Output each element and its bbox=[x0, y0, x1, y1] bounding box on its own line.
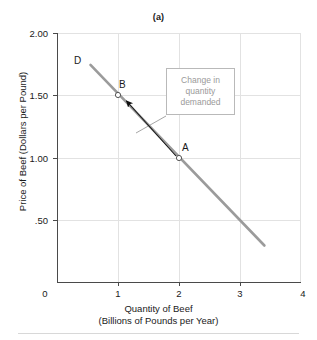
y-tick-mark-0.50 bbox=[53, 220, 57, 221]
annotation-line-1: Change in bbox=[180, 75, 220, 86]
x-tick-label-0: 0 bbox=[33, 288, 57, 299]
footer-divider bbox=[18, 333, 299, 334]
annotation-callout-box: Change in quantity demanded bbox=[166, 68, 235, 115]
y-axis bbox=[57, 33, 58, 282]
curve-label-d: D bbox=[74, 55, 81, 66]
x-tick-label-4: 4 bbox=[291, 288, 315, 299]
callout-leader-line bbox=[136, 116, 166, 133]
x-axis-title-line1: Quantity of Beef bbox=[0, 303, 317, 315]
x-tick-label-2: 2 bbox=[167, 288, 191, 299]
x-tick-label-3: 3 bbox=[228, 288, 252, 299]
data-point-label-b: B bbox=[119, 79, 126, 90]
y-tick-mark-2.00 bbox=[53, 33, 57, 34]
x-axis-title-line2: (Billions of Pounds per Year) bbox=[0, 315, 317, 327]
y-tick-mark-1.50 bbox=[53, 95, 57, 96]
annotation-callout-text: Change in quantity demanded bbox=[177, 75, 223, 108]
gridline-x-1 bbox=[118, 33, 119, 282]
figure-panel-a: (a) 2.00 1.50 1.00 .50 0 1 2 3 4 Price o… bbox=[0, 0, 317, 340]
x-tick-mark-2 bbox=[179, 282, 180, 286]
annotation-line-3: demanded bbox=[180, 97, 220, 108]
gridline-x-3 bbox=[240, 33, 241, 282]
x-tick-label-1: 1 bbox=[106, 288, 130, 299]
annotation-line-2: quantity bbox=[180, 86, 220, 97]
x-axis-title: Quantity of Beef (Billions of Pounds per… bbox=[0, 303, 317, 327]
y-axis-title: Price of Beef (Dollars per Pound) bbox=[17, 32, 28, 252]
page-title: (a) bbox=[0, 12, 317, 22]
gridline-x-4 bbox=[300, 33, 301, 282]
x-tick-mark-3 bbox=[240, 282, 241, 286]
x-tick-mark-1 bbox=[118, 282, 119, 286]
data-point-label-a: A bbox=[182, 142, 189, 153]
y-tick-mark-1.00 bbox=[53, 158, 57, 159]
